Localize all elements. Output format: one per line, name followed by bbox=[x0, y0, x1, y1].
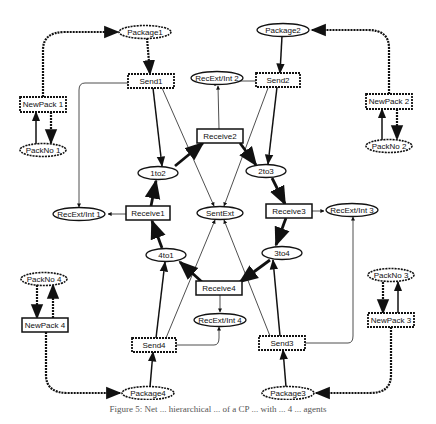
arc-package2-send2 bbox=[280, 36, 282, 73]
place-1to2[interactable]: 1to2 bbox=[138, 167, 178, 180]
place-label: 2to3 bbox=[258, 167, 274, 176]
transition-newpack1[interactable]: NewPack 1 bbox=[20, 97, 66, 112]
arc-package3-send3 bbox=[283, 350, 286, 387]
transition-label: NewPack 1 bbox=[23, 100, 64, 109]
place-label: 3to4 bbox=[274, 249, 290, 258]
transition-label: NewPack 4 bbox=[25, 321, 66, 330]
arc-receive2-2to3 bbox=[240, 143, 256, 165]
place-label: RecExt/Int 2 bbox=[195, 74, 239, 83]
places: Package1 Package2 Package3 Package4 Pack… bbox=[20, 24, 414, 400]
arc-2to3-receive3 bbox=[272, 178, 285, 204]
place-package2[interactable]: Package2 bbox=[257, 24, 309, 37]
transition-send4[interactable]: Send4 bbox=[132, 338, 176, 352]
place-packno4[interactable]: PackNo 4 bbox=[21, 273, 67, 286]
arc-receive1-1to2 bbox=[151, 181, 156, 206]
transition-newpack3[interactable]: NewPack 3 bbox=[368, 313, 414, 327]
place-label: PackNo 4 bbox=[27, 275, 62, 284]
transition-label: Send4 bbox=[142, 341, 166, 350]
transition-newpack2[interactable]: NewPack 2 bbox=[366, 94, 412, 109]
arc-newpack1-package1 bbox=[43, 32, 118, 97]
place-label: PackNo 3 bbox=[374, 271, 409, 280]
transition-label: NewPack 2 bbox=[369, 97, 410, 106]
arc-send1-recextint1 bbox=[79, 83, 128, 207]
transition-label: Receive2 bbox=[203, 132, 237, 141]
place-package4[interactable]: Package4 bbox=[122, 387, 174, 400]
arc-send4-recextint4 bbox=[176, 327, 219, 345]
place-packno3[interactable]: PackNo 3 bbox=[368, 269, 414, 282]
arc-newpack3-package3 bbox=[316, 327, 391, 393]
transition-send3[interactable]: Send3 bbox=[259, 336, 305, 350]
arc-send3-3to4 bbox=[273, 260, 280, 336]
place-label: 4to1 bbox=[158, 251, 174, 260]
arc-send1-1to2 bbox=[153, 88, 162, 166]
arc-1to2-receive2 bbox=[175, 143, 203, 166]
transition-label: Send2 bbox=[266, 76, 290, 85]
arc-receive2-recextint2 bbox=[218, 86, 219, 129]
place-label: PackNo 1 bbox=[26, 146, 61, 155]
place-recextint4[interactable]: RecExt/Int 4 bbox=[194, 314, 246, 327]
arc-send2-sentext bbox=[224, 88, 268, 206]
place-recextint1[interactable]: RecExt/Int 1 bbox=[53, 208, 105, 221]
place-package1[interactable]: Package1 bbox=[119, 26, 171, 39]
place-label: Package1 bbox=[127, 28, 163, 37]
transition-send2[interactable]: Send2 bbox=[256, 73, 300, 87]
arc-send4-4to1 bbox=[156, 262, 165, 338]
arc-newpack2-package2 bbox=[312, 30, 389, 94]
place-packno1[interactable]: PackNo 1 bbox=[20, 144, 66, 157]
arc-receive3-3to4 bbox=[276, 218, 286, 245]
transition-send1[interactable]: Send1 bbox=[128, 74, 174, 88]
place-recextint3[interactable]: RecExt/Int 3 bbox=[326, 204, 378, 217]
place-sentext[interactable]: SentExt bbox=[197, 207, 243, 220]
arc-4to1-receive1 bbox=[152, 221, 162, 248]
figure-caption: Figure 5: Net ... hierarchical ... of a … bbox=[0, 404, 436, 414]
place-label: RecExt/Int 1 bbox=[57, 210, 101, 219]
place-packno2[interactable]: PackNo 2 bbox=[366, 140, 412, 153]
transition-receive3[interactable]: Receive3 bbox=[266, 204, 312, 218]
place-3to4[interactable]: 3to4 bbox=[262, 247, 302, 260]
place-label: PackNo 2 bbox=[372, 142, 407, 151]
transition-newpack4[interactable]: NewPack 4 bbox=[22, 318, 68, 332]
place-label: SentExt bbox=[206, 209, 235, 218]
transition-label: Send1 bbox=[139, 77, 163, 86]
petri-net-diagram: Package1 Package2 Package3 Package4 Pack… bbox=[0, 0, 436, 400]
transition-receive2[interactable]: Receive2 bbox=[197, 129, 243, 143]
place-2to3[interactable]: 2to3 bbox=[246, 165, 286, 178]
transition-receive1[interactable]: Receive1 bbox=[126, 206, 170, 220]
transition-receive4[interactable]: Receive4 bbox=[196, 281, 242, 295]
transition-label: Receive3 bbox=[272, 207, 306, 216]
place-label: Package3 bbox=[270, 389, 306, 398]
arc-package4-send4 bbox=[150, 352, 153, 387]
place-package3[interactable]: Package3 bbox=[262, 387, 314, 400]
transition-label: Receive4 bbox=[202, 284, 236, 293]
place-label: RecExt/Int 4 bbox=[198, 316, 242, 325]
place-4to1[interactable]: 4to1 bbox=[146, 249, 186, 262]
arc-receive4-4to1 bbox=[180, 262, 202, 282]
place-label: RecExt/Int 3 bbox=[330, 206, 374, 215]
arc-send2-2to3 bbox=[268, 87, 277, 164]
transition-label: Send3 bbox=[270, 339, 294, 348]
place-label: Package4 bbox=[130, 389, 166, 398]
place-label: Package2 bbox=[265, 26, 301, 35]
arc-package1-send1 bbox=[147, 38, 150, 74]
arc-send3-recextint3 bbox=[305, 217, 353, 343]
place-label: 1to2 bbox=[150, 169, 166, 178]
arc-newpack4-package4 bbox=[46, 332, 120, 393]
place-recextint2[interactable]: RecExt/Int 2 bbox=[191, 72, 243, 85]
transition-label: Receive1 bbox=[131, 209, 165, 218]
arc-send1-sentext bbox=[162, 88, 214, 206]
transition-label: NewPack 3 bbox=[371, 316, 412, 325]
